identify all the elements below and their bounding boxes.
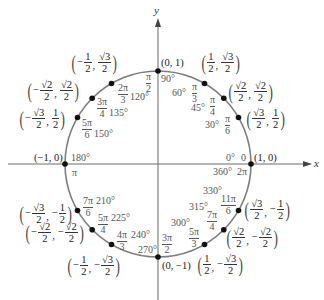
point-150 xyxy=(75,115,81,121)
point-300 xyxy=(202,242,208,248)
rad-30: π6 xyxy=(225,114,230,136)
deg-90: 90° xyxy=(161,74,175,84)
y-axis-arrow-icon xyxy=(155,18,161,27)
point-270 xyxy=(155,254,161,260)
point-30 xyxy=(236,115,242,121)
coord-60: (12,√32) xyxy=(200,51,242,74)
deg-360: 360° xyxy=(213,167,232,177)
rad-135: 3π4 xyxy=(97,97,107,119)
deg-30: 30° xyxy=(205,120,219,130)
deg-120: 120° xyxy=(130,92,149,102)
deg-45: 45° xyxy=(191,103,205,113)
point-180 xyxy=(62,161,68,167)
rad-60: π3 xyxy=(192,82,197,104)
rad-270: 3π2 xyxy=(162,233,172,255)
deg-60: 60° xyxy=(172,88,186,98)
coord-225: (−√22,−√22) xyxy=(24,221,85,244)
deg-270: 270° xyxy=(138,245,157,255)
deg-0: 0° xyxy=(226,153,235,163)
deg-300: 300° xyxy=(171,218,190,228)
y-axis-label: y xyxy=(154,4,159,16)
point-45 xyxy=(221,95,227,101)
coord-0: (1, 0) xyxy=(254,153,277,164)
point-60 xyxy=(202,81,208,87)
coord-30: (√32,12) xyxy=(245,107,287,130)
point-210 xyxy=(75,208,81,214)
point-0 xyxy=(248,161,254,167)
point-135 xyxy=(89,95,95,101)
rad-315: 7π4 xyxy=(207,210,217,232)
rad-225: 5π4 xyxy=(98,213,108,235)
x-axis-label: x xyxy=(314,157,319,169)
point-330 xyxy=(236,208,242,214)
deg-240: 240° xyxy=(131,230,150,240)
rad-2pi: 2π xyxy=(237,167,247,177)
deg-180: 180° xyxy=(71,153,90,163)
deg-135: 135° xyxy=(109,108,128,118)
rad-240: 4π3 xyxy=(117,230,127,252)
x-axis-arrow-icon xyxy=(303,161,312,167)
coord-120: (−12,√32) xyxy=(70,51,118,74)
point-225 xyxy=(89,227,95,233)
coord-180: (−1, 0) xyxy=(34,153,63,164)
point-240 xyxy=(109,242,115,248)
rad-0: 0 xyxy=(241,153,246,163)
deg-330: 330° xyxy=(203,186,222,196)
point-90 xyxy=(155,68,161,74)
rad-330: 11π6 xyxy=(221,194,236,216)
rad-45: π4 xyxy=(210,95,215,117)
coord-270: (0, −1) xyxy=(162,261,191,272)
coord-330: (√32,−12) xyxy=(243,198,291,221)
coord-315: (√22,−√22) xyxy=(225,226,279,249)
deg-150: 150° xyxy=(94,129,113,139)
rad-180: π xyxy=(72,168,77,178)
coord-150: (−√32,12) xyxy=(18,107,66,130)
coord-135: (−√22,√22) xyxy=(26,79,80,102)
coord-45: (√22,√22) xyxy=(227,80,274,103)
rad-150: 5π6 xyxy=(82,118,92,140)
rad-120: 2π3 xyxy=(118,83,128,105)
deg-315: 315° xyxy=(189,202,208,212)
unit-circle-diagram xyxy=(0,0,324,300)
rad-300: 5π3 xyxy=(189,227,199,249)
rad-210: 7π6 xyxy=(83,196,93,218)
coord-300: (12,−√32) xyxy=(196,253,244,276)
deg-225: 225° xyxy=(111,213,130,223)
point-120 xyxy=(109,81,115,87)
coord-90: (0, 1) xyxy=(161,58,184,69)
coord-240: (−12,−√32) xyxy=(66,254,121,277)
deg-210: 210° xyxy=(96,196,115,206)
